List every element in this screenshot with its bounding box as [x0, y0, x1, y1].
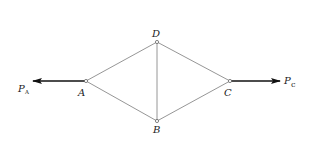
force-label-pc-subscript: c: [291, 80, 296, 89]
node-label-c: C: [224, 87, 232, 98]
member-bc: [157, 81, 230, 121]
joint-a: [84, 79, 87, 82]
joint-c: [228, 79, 231, 82]
member-ab: [86, 81, 157, 121]
force-label-pc-symbol: P: [283, 75, 291, 86]
force-label-pc: P c: [283, 75, 296, 89]
node-label-b: B: [152, 124, 160, 135]
member-dc: [157, 42, 230, 81]
joint-d: [155, 40, 158, 43]
force-label-pa-symbol: P: [17, 83, 25, 94]
member-ad: [86, 42, 157, 81]
truss-svg: D A B C P A P c: [0, 0, 315, 149]
joint-b: [155, 119, 158, 122]
force-label-pa: P A: [17, 83, 30, 95]
node-label-a: A: [77, 87, 85, 98]
node-label-d: D: [151, 28, 160, 39]
force-label-pa-subscript: A: [24, 89, 30, 95]
truss-diagram: D A B C P A P c: [0, 0, 315, 149]
